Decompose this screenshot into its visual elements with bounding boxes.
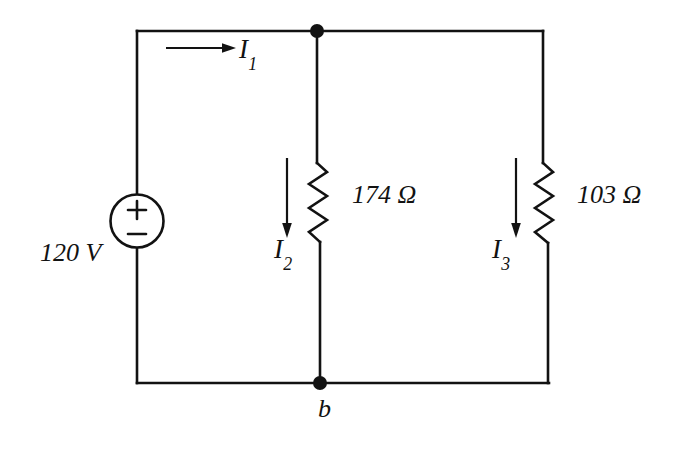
resistor-zigzag-right (535, 163, 553, 243)
current-label-3: I3 (492, 236, 510, 268)
current-label-1-subscript: 1 (248, 54, 257, 74)
current-arrow-3-icon (511, 158, 521, 238)
current-arrow-1-icon (166, 43, 236, 53)
circuit-diagram: I1 I2 I3 120 V 174 Ω 103 Ω b (0, 0, 675, 454)
resistor-label-103-ohm: 103 Ω (577, 182, 641, 208)
node-label-b: b (318, 396, 331, 422)
resistor-zigzag-middle (309, 163, 327, 242)
resistor-label-174-ohm: 174 Ω (352, 182, 416, 208)
current-arrow-2-icon (282, 158, 292, 238)
current-label-2: I2 (274, 236, 292, 268)
junction-dot-top (310, 24, 324, 38)
current-label-2-subscript: 2 (283, 254, 292, 274)
voltage-source-symbol (111, 195, 164, 248)
voltage-source-label: 120 V (40, 240, 101, 266)
circuit-schematic-canvas (0, 0, 675, 454)
junction-dot-bottom-b (313, 376, 327, 390)
current-label-3-subscript: 3 (501, 254, 510, 274)
current-label-1: I1 (239, 36, 257, 68)
